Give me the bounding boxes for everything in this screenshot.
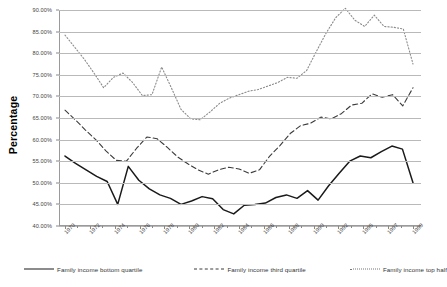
x-axis-minor-tick-mark — [301, 226, 302, 228]
y-axis-tick-label: 60.00% — [32, 137, 52, 143]
y-axis-tick-label: 55.00% — [32, 158, 52, 164]
chart-legend: Family income bottom quartileFamily inco… — [24, 258, 426, 280]
x-axis-minor-tick-mark — [127, 226, 128, 228]
y-axis-tick-label: 85.00% — [32, 29, 52, 35]
y-axis-title-text: Percentage — [7, 96, 19, 155]
legend-item-2[interactable]: Family income third quartile — [194, 265, 305, 273]
x-axis-minor-tick-mark — [351, 226, 352, 228]
y-axis-tick-label: 70.00% — [32, 93, 52, 99]
x-axis-minor-tick-mark — [152, 226, 153, 228]
solid-line-key — [24, 265, 54, 273]
y-axis-tick-label: 45.00% — [32, 201, 52, 207]
gridline — [59, 161, 421, 162]
y-axis-tick-label: 50.00% — [32, 180, 52, 186]
x-axis-ticks: 1970197219741976197819801982198419861988… — [59, 226, 421, 260]
dashed-line-key — [194, 265, 224, 273]
gridline — [59, 118, 421, 119]
x-axis-minor-tick-mark — [376, 226, 377, 228]
plot-area — [59, 10, 421, 226]
x-axis-minor-tick-mark — [276, 226, 277, 228]
gridline — [59, 140, 421, 141]
y-axis-tick-label: 90.00% — [32, 7, 52, 13]
y-axis-tick-label: 65.00% — [32, 115, 52, 121]
y-axis-tick-label: 75.00% — [32, 72, 52, 78]
legend-item-label: Family income bottom quartile — [57, 266, 142, 273]
x-axis-minor-tick-mark — [326, 226, 327, 228]
x-axis-minor-tick-mark — [251, 226, 252, 228]
gridline — [59, 75, 421, 76]
x-axis-minor-tick-mark — [102, 226, 103, 228]
plot-area-wrapper: 40.00%45.00%50.00%55.00%60.00%65.00%70.0… — [24, 10, 426, 245]
legend-item-3[interactable]: Family income top half — [350, 265, 447, 273]
legend-item-label: Family income third quartile — [227, 266, 305, 273]
x-axis-minor-tick-mark — [202, 226, 203, 228]
gridline — [59, 204, 421, 205]
gridline — [59, 96, 421, 97]
gridline — [59, 10, 421, 11]
gridline — [59, 183, 421, 184]
dotted-line-key — [350, 265, 380, 273]
legend-item-label: Family income top half — [383, 266, 447, 273]
y-axis-tick-label: 40.00% — [32, 223, 52, 229]
gridline — [59, 53, 421, 54]
y-axis-title: Percentage — [2, 0, 24, 250]
y-axis-tick-label: 80.00% — [32, 50, 52, 56]
y-axis-ticks: 40.00%45.00%50.00%55.00%60.00%65.00%70.0… — [24, 10, 56, 226]
legend-item-1[interactable]: Family income bottom quartile — [24, 265, 142, 273]
gridline — [59, 32, 421, 33]
x-axis-minor-tick-mark — [227, 226, 228, 228]
x-axis-minor-tick-mark — [77, 226, 78, 228]
x-axis-minor-tick-mark — [177, 226, 178, 228]
x-axis-minor-tick-mark — [401, 226, 402, 228]
